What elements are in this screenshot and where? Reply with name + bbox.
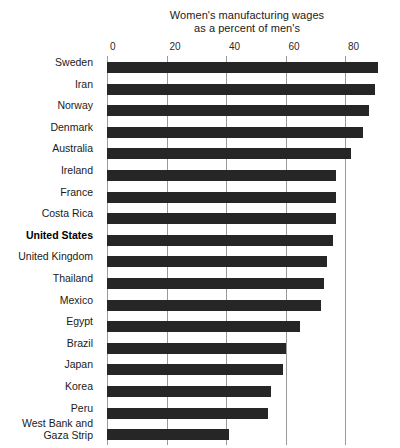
bar-sweden bbox=[107, 62, 378, 73]
bar-costa-rica bbox=[107, 213, 336, 224]
bar-france bbox=[107, 192, 336, 203]
chart-row: Iran bbox=[0, 78, 400, 100]
chart-row: Norway bbox=[0, 99, 400, 121]
x-axis-tick-20: 20 bbox=[170, 41, 181, 53]
category-label-sweden: Sweden bbox=[0, 56, 93, 68]
category-label-ireland: Ireland bbox=[0, 164, 93, 176]
bar-korea bbox=[107, 386, 271, 397]
chart-row: Costa Rica bbox=[0, 207, 400, 229]
bar-iran bbox=[107, 84, 375, 95]
bar-japan bbox=[107, 364, 283, 375]
chart-row: Denmark bbox=[0, 121, 400, 143]
chart-row: United States bbox=[0, 229, 400, 251]
bar-chart: Women's manufacturing wages as a percent… bbox=[0, 0, 400, 448]
chart-title-line-1: Women's manufacturing wages bbox=[107, 9, 387, 22]
chart-row: Thailand bbox=[0, 272, 400, 294]
category-label-denmark: Denmark bbox=[0, 121, 93, 133]
category-label-thailand: Thailand bbox=[0, 272, 93, 284]
category-label-norway: Norway bbox=[0, 99, 93, 111]
x-axis-tick-40: 40 bbox=[229, 41, 240, 53]
category-label-mexico: Mexico bbox=[0, 294, 93, 306]
chart-row: Brazil bbox=[0, 337, 400, 359]
bar-united-states bbox=[107, 235, 333, 246]
chart-row: West Bank andGaza Strip bbox=[0, 423, 400, 445]
x-axis-tick-labels: 020406080 bbox=[0, 41, 400, 57]
chart-title-line-2: as a percent of men's bbox=[107, 22, 387, 35]
bar-brazil bbox=[107, 343, 286, 354]
x-axis-tick-0: 0 bbox=[110, 41, 116, 53]
bar-west-bank-and-gaza-strip bbox=[107, 429, 229, 440]
category-label-united-kingdom: United Kingdom bbox=[0, 250, 93, 262]
bar-norway bbox=[107, 105, 369, 116]
category-label-australia: Australia bbox=[0, 142, 93, 154]
category-label-iran: Iran bbox=[0, 78, 93, 90]
category-label-france: France bbox=[0, 186, 93, 198]
bar-denmark bbox=[107, 127, 363, 138]
category-label-korea: Korea bbox=[0, 380, 93, 392]
category-label-brazil: Brazil bbox=[0, 337, 93, 349]
chart-row: Korea bbox=[0, 380, 400, 402]
chart-row: Sweden bbox=[0, 56, 400, 78]
bar-thailand bbox=[107, 278, 324, 289]
chart-row: Australia bbox=[0, 142, 400, 164]
category-label-united-states: United States bbox=[0, 229, 93, 241]
chart-row: Japan bbox=[0, 358, 400, 380]
category-label-line-2: Gaza Strip bbox=[0, 430, 93, 442]
bar-ireland bbox=[107, 170, 336, 181]
bar-egypt bbox=[107, 321, 300, 332]
x-axis-tick-60: 60 bbox=[289, 41, 300, 53]
chart-row: France bbox=[0, 186, 400, 208]
chart-row: Mexico bbox=[0, 294, 400, 316]
bar-australia bbox=[107, 148, 351, 159]
chart-row: Egypt bbox=[0, 315, 400, 337]
chart-title: Women's manufacturing wages as a percent… bbox=[107, 9, 387, 35]
chart-row: Ireland bbox=[0, 164, 400, 186]
category-label-west-bank-and-gaza-strip: West Bank andGaza Strip bbox=[0, 418, 93, 441]
category-label-costa-rica: Costa Rica bbox=[0, 207, 93, 219]
category-label-peru: Peru bbox=[0, 402, 93, 414]
x-axis-tick-80: 80 bbox=[348, 41, 359, 53]
category-label-line-1: West Bank and bbox=[0, 418, 93, 430]
category-label-egypt: Egypt bbox=[0, 315, 93, 327]
bar-mexico bbox=[107, 300, 321, 311]
category-label-japan: Japan bbox=[0, 358, 93, 370]
bar-peru bbox=[107, 408, 268, 419]
chart-row: United Kingdom bbox=[0, 250, 400, 272]
bar-united-kingdom bbox=[107, 256, 327, 267]
